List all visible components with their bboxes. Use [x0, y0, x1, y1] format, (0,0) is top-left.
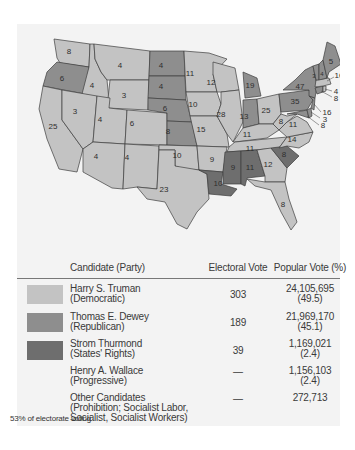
state-nd — [149, 51, 185, 76]
svg-text:14: 14 — [288, 135, 297, 144]
svg-text:10: 10 — [173, 151, 182, 160]
header-candidate: Candidate (Party) — [70, 262, 145, 273]
svg-text:11: 11 — [243, 130, 252, 139]
svg-text:10: 10 — [189, 100, 198, 109]
table-row: Thomas E. Dewey (Republican) 189 21,969,… — [17, 312, 340, 339]
table-row: Other Candidates (Prohibition; Socialist… — [17, 393, 340, 431]
swatch-republican — [27, 313, 63, 332]
candidate-cell: Harry S. Truman (Democratic) — [70, 284, 140, 304]
svg-text:9: 9 — [210, 155, 215, 164]
svg-text:10: 10 — [214, 179, 223, 188]
svg-text:23: 23 — [160, 185, 169, 194]
svg-text:12: 12 — [264, 160, 273, 169]
candidate-cell: Thomas E. Dewey (Republican) — [70, 312, 149, 332]
footnote: 53% of electorate voting — [10, 414, 91, 423]
us-electoral-map: 8 6 25 4 3 4 3 4 6 4 4 4 4 6 8 10 23 11 … — [17, 24, 340, 244]
popular-vote-cell: 24,105,695 (49.5) — [275, 284, 345, 304]
svg-text:4: 4 — [159, 82, 164, 91]
svg-text:11: 11 — [246, 163, 255, 172]
state-fl — [247, 179, 297, 230]
table-row: Henry A. Wallace (Progressive) — 1,156,1… — [17, 366, 340, 393]
popular-percent: (2.4) — [275, 349, 345, 359]
svg-text:4: 4 — [94, 152, 99, 161]
electoral-vote: — — [213, 366, 263, 377]
state-wi — [213, 62, 239, 92]
svg-text:16: 16 — [335, 71, 340, 80]
results-table: Candidate (Party) Electoral Vote Popular… — [17, 262, 340, 431]
svg-text:4: 4 — [159, 61, 164, 70]
candidate-cell: Strom Thurmond (States' Rights) — [70, 339, 142, 359]
popular-vote-cell: 1,156,103 (2.4) — [275, 366, 345, 386]
svg-text:47: 47 — [296, 82, 305, 91]
electoral-vote: 303 — [213, 289, 263, 300]
table-row: Harry S. Truman (Democratic) 303 24,105,… — [17, 284, 340, 312]
svg-text:15: 15 — [197, 125, 206, 134]
map-svg: 8 6 25 4 3 4 3 4 6 4 4 4 4 6 8 10 23 11 … — [17, 24, 340, 244]
swatch-states-rights — [27, 341, 63, 360]
state-sd — [148, 76, 186, 100]
svg-text:6: 6 — [60, 74, 65, 83]
svg-text:6: 6 — [163, 104, 168, 113]
svg-text:3: 3 — [122, 91, 127, 100]
svg-text:8: 8 — [279, 117, 284, 126]
popular-percent: (2.4) — [275, 376, 345, 386]
svg-text:4: 4 — [98, 115, 103, 124]
popular-vote-cell: 272,713 — [275, 393, 345, 403]
svg-text:35: 35 — [291, 97, 300, 106]
popular-percent: (45.1) — [275, 322, 345, 332]
svg-text:11: 11 — [289, 120, 298, 129]
svg-text:8: 8 — [67, 47, 72, 56]
popular-vote: 272,713 — [275, 393, 345, 403]
electoral-vote: — — [213, 393, 263, 404]
svg-text:25: 25 — [262, 106, 271, 115]
header-popular-vote: Popular Vote (%) — [269, 262, 351, 273]
candidate-party: (Democratic) — [70, 294, 140, 304]
popular-percent: (49.5) — [275, 294, 345, 304]
svg-text:28: 28 — [217, 110, 226, 119]
state-az — [83, 142, 125, 189]
popular-vote-cell: 21,969,170 (45.1) — [275, 312, 345, 332]
svg-text:25: 25 — [49, 122, 58, 131]
swatch-democratic — [27, 285, 63, 304]
svg-text:4: 4 — [118, 61, 123, 70]
svg-text:13: 13 — [240, 112, 249, 121]
table-row: Strom Thurmond (States' Rights) 39 1,169… — [17, 339, 340, 366]
svg-text:5: 5 — [329, 57, 334, 66]
svg-text:3: 3 — [73, 107, 78, 116]
candidate-party: (Republican) — [70, 322, 149, 332]
popular-vote-cell: 1,169,021 (2.4) — [275, 339, 345, 359]
svg-text:4: 4 — [90, 81, 95, 90]
candidate-party: (Progressive) — [70, 376, 143, 386]
electoral-vote: 189 — [213, 317, 263, 328]
svg-text:11: 11 — [186, 69, 195, 78]
svg-text:8: 8 — [166, 127, 171, 136]
svg-text:4: 4 — [125, 153, 130, 162]
svg-text:8: 8 — [321, 121, 326, 130]
svg-text:19: 19 — [246, 81, 255, 90]
electoral-vote: 39 — [213, 345, 263, 356]
svg-text:8: 8 — [282, 150, 287, 159]
svg-text:11: 11 — [246, 144, 255, 153]
state-nm — [123, 144, 159, 189]
svg-text:8: 8 — [334, 94, 339, 103]
table-header: Candidate (Party) Electoral Vote Popular… — [17, 262, 340, 279]
state-wy — [107, 80, 149, 110]
candidate-party: (States' Rights) — [70, 349, 142, 359]
svg-text:6: 6 — [130, 119, 135, 128]
svg-text:8: 8 — [281, 200, 286, 209]
svg-text:12: 12 — [207, 78, 216, 87]
svg-text:9: 9 — [231, 163, 236, 172]
candidate-cell: Henry A. Wallace (Progressive) — [70, 366, 143, 386]
